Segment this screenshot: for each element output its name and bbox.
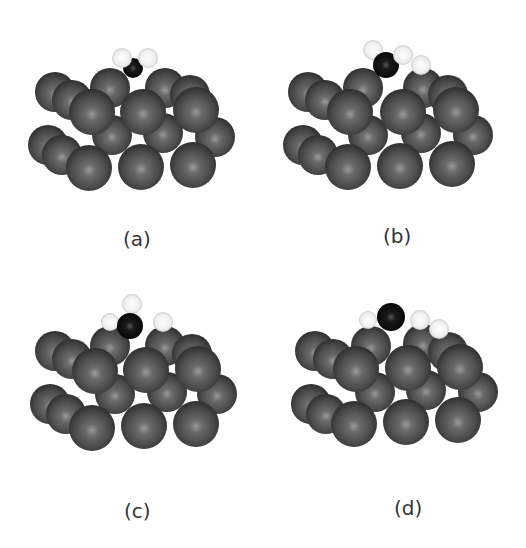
hydrogen-atom — [101, 313, 119, 331]
carbon-atom — [117, 313, 143, 339]
hydrogen-atom — [138, 48, 158, 68]
panel-c: (c) — [0, 274, 263, 548]
hydrogen-atom — [112, 48, 132, 68]
panel-label-c: (c) — [124, 499, 151, 523]
panel-label-d: (d) — [394, 496, 422, 520]
hydrogen-atom — [153, 312, 173, 332]
carbon-atom — [377, 303, 405, 331]
hydrogen-atom — [393, 45, 413, 65]
panel-label-a: (a) — [123, 227, 151, 251]
panel-a: (a) — [0, 0, 263, 274]
hydrogen-atom — [359, 311, 377, 329]
panel-b: (b) — [263, 0, 526, 274]
hydrogen-atom — [410, 310, 430, 330]
hydrogen-atom — [122, 294, 142, 314]
panel-label-b: (b) — [383, 224, 411, 248]
panel-d: (d) — [263, 274, 526, 548]
hydrogen-atom — [429, 319, 449, 339]
hydrogen-atom — [411, 55, 431, 75]
